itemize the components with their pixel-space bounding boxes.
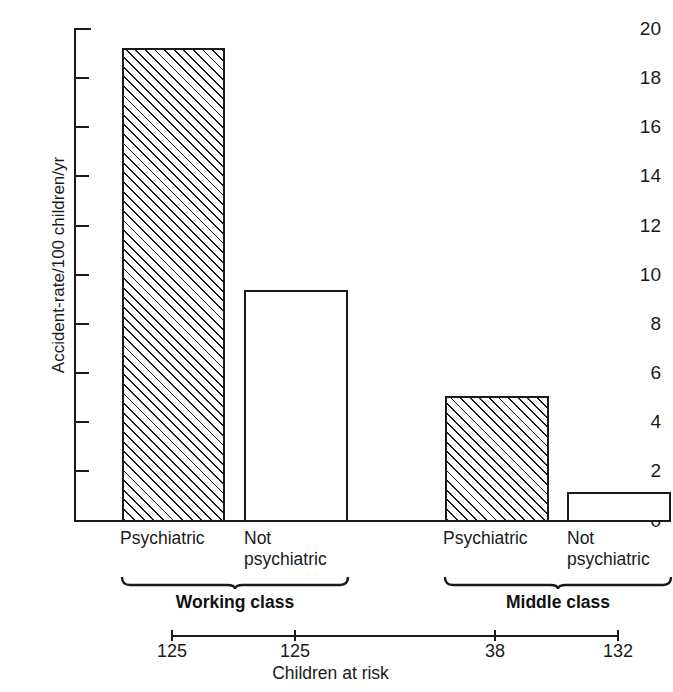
children-at-risk-axis-line [172, 635, 619, 637]
y-tick-label-16: 16 [591, 116, 661, 138]
y-tick-label-8: 8 [591, 313, 661, 335]
y-tick-12 [76, 225, 89, 227]
risk-value-working-not-psychiatric: 125 [255, 641, 335, 662]
children-at-risk-axis-title: Children at risk [0, 663, 661, 684]
y-tick-label-18: 18 [591, 67, 661, 89]
risk-tick-2 [294, 630, 296, 641]
y-tick-label-20: 20 [591, 18, 661, 40]
y-axis-title: Accident-rate/100 children/yr [49, 55, 69, 475]
group-label-working-class: Working class [120, 592, 350, 613]
risk-value-working-psychiatric: 125 [132, 641, 212, 662]
bar-working-not-psychiatric [244, 290, 348, 522]
risk-value-middle-psychiatric: 38 [455, 641, 535, 662]
y-tick-8 [76, 323, 89, 325]
y-tick-18 [76, 77, 89, 79]
y-tick-label-12: 12 [591, 215, 661, 237]
brace-working-class [120, 575, 350, 589]
y-tick-label-2: 2 [591, 460, 661, 482]
y-tick-20 [76, 28, 91, 30]
y-tick-4 [76, 421, 89, 423]
brace-middle-class [443, 575, 673, 589]
group-label-middle-class: Middle class [443, 592, 673, 613]
risk-tick-3 [494, 630, 496, 641]
y-tick-2 [76, 470, 89, 472]
risk-tick-1 [171, 630, 173, 641]
bar-working-psychiatric [122, 48, 225, 522]
y-tick-label-6: 6 [591, 362, 661, 384]
y-tick-label-10: 10 [591, 264, 661, 286]
y-tick-6 [76, 372, 89, 374]
risk-value-middle-not-psychiatric: 132 [578, 641, 658, 662]
y-tick-10 [76, 274, 89, 276]
y-tick-14 [76, 175, 89, 177]
y-tick-16 [76, 126, 89, 128]
bar-middle-psychiatric [445, 396, 549, 522]
risk-tick-4 [617, 630, 619, 641]
bar-label-working-not-psychiatric: Not psychiatric [244, 528, 327, 570]
bar-label-working-psychiatric: Psychiatric [120, 528, 205, 549]
bar-label-middle-psychiatric: Psychiatric [443, 528, 528, 549]
y-tick-label-4: 4 [591, 411, 661, 433]
bar-middle-not-psychiatric [567, 492, 671, 522]
bar-label-middle-not-psychiatric: Not psychiatric [567, 528, 650, 570]
y-tick-label-14: 14 [591, 165, 661, 187]
